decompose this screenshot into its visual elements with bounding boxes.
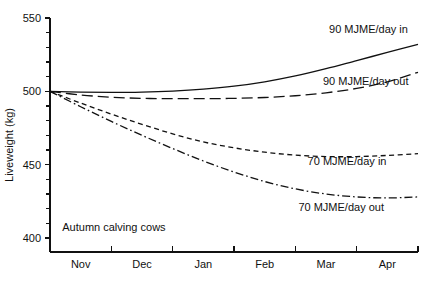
chart-annotation: Autumn calving cows [62, 221, 166, 233]
series-label-1: 90 MJME/day in [329, 23, 408, 35]
series-label-4: 70 MJME/day out [298, 201, 384, 213]
x-tick-label: Apr [379, 258, 396, 270]
axes [50, 18, 418, 252]
series-label-3: 70 MJME/day in [308, 155, 387, 167]
y-tick-label: 400 [23, 232, 41, 244]
chart-figure: 400450500550 NovDecJanFebMarApr 90 MJME/… [0, 0, 436, 281]
chart-canvas: 400450500550 NovDecJanFebMarApr 90 MJME/… [0, 0, 436, 281]
y-tick-label: 550 [23, 12, 41, 24]
x-axis-tick-labels: NovDecJanFebMarApr [71, 258, 396, 270]
y-axis-title: Liveweight (kg) [3, 108, 15, 182]
x-tick-label: Mar [317, 258, 336, 270]
y-tick-label: 500 [23, 85, 41, 97]
x-tick-label: Feb [255, 258, 274, 270]
data-series [50, 44, 418, 198]
series-label-2: 90 MJME/day out [323, 75, 409, 87]
series-line-3 [50, 91, 418, 156]
y-axis-tick-labels: 400450500550 [23, 12, 41, 244]
y-tick-label: 450 [23, 159, 41, 171]
x-tick-label: Nov [71, 258, 91, 270]
x-tick-label: Jan [194, 258, 212, 270]
tick-marks [45, 18, 418, 252]
x-tick-label: Dec [132, 258, 152, 270]
series-line-4 [50, 91, 418, 198]
